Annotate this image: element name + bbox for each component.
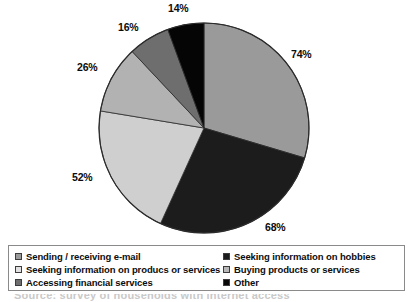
legend-swatch-icon [223,266,230,273]
legend-item[interactable]: Sending / receiving e-mail [15,250,223,263]
pie-svg [0,0,420,240]
legend-row: Seeking information on producs or servic… [15,263,404,276]
legend-swatch-icon [223,253,230,260]
figure-caption-cropped: Source: survey of households with intern… [0,294,420,302]
legend-item[interactable]: Other [223,276,403,289]
legend-item-label: Sending / receiving e-mail [26,252,141,262]
legend-row: Accessing financial servicesOther [15,276,404,289]
legend-row: Sending / receiving e-mailSeeking inform… [15,250,404,263]
pie-chart-figure: 74% 68% 52% 26% 16% 14% Sending / receiv… [0,0,420,302]
pie-label-16: 16% [118,22,138,33]
pie-label-14: 14% [168,3,188,14]
legend-item[interactable]: Seeking information on hobbies [223,250,403,263]
legend-item-label: Seeking information on producs or servic… [26,265,220,275]
legend-swatch-icon [15,279,22,286]
legend-swatch-icon [15,266,22,273]
legend-swatch-icon [223,279,230,286]
legend-item-label: Accessing financial services [26,278,153,288]
legend-item-label: Buying products or services [234,265,360,275]
legend-item[interactable]: Buying products or services [223,263,403,276]
chart-legend: Sending / receiving e-mailSeeking inform… [8,245,405,291]
pie-label-68: 68% [265,222,285,233]
pie-plot-area: 74% 68% 52% 26% 16% 14% [0,0,420,240]
pie-label-74: 74% [291,49,311,60]
pie-label-52: 52% [72,172,92,183]
legend-item[interactable]: Accessing financial services [15,276,223,289]
pie-slice-group [99,23,309,233]
pie-label-26: 26% [77,62,97,73]
legend-item-label: Other [234,278,259,288]
figure-caption-text: Source: survey of households with intern… [14,294,290,301]
legend-swatch-icon [15,253,22,260]
legend-item[interactable]: Seeking information on producs or servic… [15,263,223,276]
legend-item-label: Seeking information on hobbies [234,252,376,262]
legend-grid: Sending / receiving e-mailSeeking inform… [9,246,404,290]
